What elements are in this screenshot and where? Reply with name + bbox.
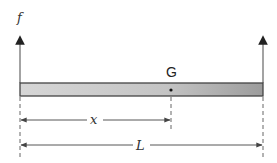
- distance-label: x: [90, 112, 98, 127]
- length-label: L: [135, 138, 145, 153]
- force-label: f: [16, 10, 24, 25]
- beam: [20, 83, 263, 96]
- center-of-mass-dot: [169, 88, 172, 91]
- beam-diagram: f G x L: [0, 0, 277, 163]
- center-of-mass-label: G: [166, 64, 177, 80]
